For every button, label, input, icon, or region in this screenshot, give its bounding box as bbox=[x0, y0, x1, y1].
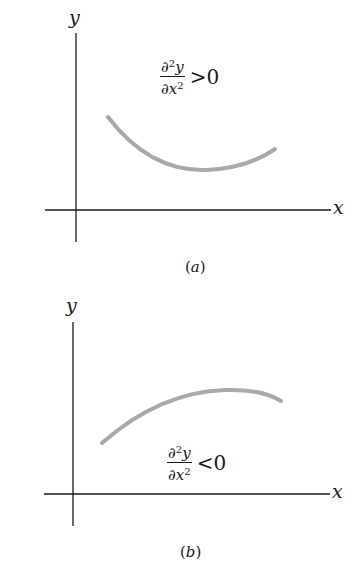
partial-symbol: ∂ bbox=[168, 444, 176, 462]
concave-down-curve bbox=[102, 390, 281, 443]
variable-x: x bbox=[169, 80, 177, 98]
numerator-a: ∂2y bbox=[160, 56, 185, 77]
partial-symbol: ∂ bbox=[161, 58, 169, 76]
relation-less-than-zero: <0 bbox=[197, 451, 226, 475]
partial-symbol: ∂ bbox=[161, 80, 169, 98]
x-axis-label-a: x bbox=[333, 196, 344, 218]
variable-y: y bbox=[175, 58, 183, 76]
denominator-b: ∂x2 bbox=[168, 463, 191, 483]
fraction-b: ∂2y ∂x2 bbox=[167, 442, 192, 483]
relation-greater-than-zero: >0 bbox=[190, 65, 219, 89]
fraction-a: ∂2y ∂x2 bbox=[160, 56, 185, 97]
denominator-a: ∂x2 bbox=[161, 77, 184, 97]
paren-close: ) bbox=[200, 258, 206, 276]
paren-close: ) bbox=[195, 543, 201, 561]
caption-letter-a: a bbox=[191, 258, 200, 276]
y-axis-label-b: y bbox=[66, 294, 77, 316]
variable-y: y bbox=[182, 444, 190, 462]
exponent: 2 bbox=[177, 80, 183, 91]
caption-b: (b) bbox=[180, 543, 201, 561]
exponent: 2 bbox=[184, 466, 190, 477]
x-axis-label-b: x bbox=[332, 480, 343, 502]
caption-a: (a) bbox=[185, 258, 206, 276]
second-derivative-positive-label: ∂2y ∂x2 >0 bbox=[160, 56, 219, 97]
second-derivative-negative-label: ∂2y ∂x2 <0 bbox=[167, 442, 226, 483]
concave-up-curve bbox=[108, 117, 275, 170]
variable-x: x bbox=[176, 466, 184, 484]
partial-symbol: ∂ bbox=[168, 466, 176, 484]
panel-b bbox=[44, 322, 330, 526]
y-axis-label-a: y bbox=[69, 6, 80, 28]
numerator-b: ∂2y bbox=[167, 442, 192, 463]
